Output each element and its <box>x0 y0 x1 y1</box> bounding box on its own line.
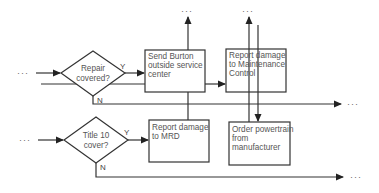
no-label: N <box>97 96 103 105</box>
process-label: Send Burton <box>148 52 194 61</box>
process-label: center <box>148 70 171 79</box>
continuation-top-1: ··· <box>181 6 193 16</box>
process-label: Report damage <box>229 51 286 60</box>
continuation-entry-1: ··· <box>17 68 29 78</box>
decision-label: Repair <box>81 64 105 73</box>
arrow-no-2 <box>96 163 343 177</box>
arrow-no-1 <box>93 96 341 104</box>
process-order-powertrain: Order powertrain from manufacturer <box>229 122 294 165</box>
decision-title10-cover: Title 10 cover? Y N <box>64 117 130 172</box>
process-label: Order powertrain <box>232 125 294 134</box>
continuation-top-2: ··· <box>242 6 254 16</box>
process-label: Control <box>229 69 256 78</box>
decision-label: covered? <box>76 74 110 83</box>
process-label: from <box>232 134 249 143</box>
decision-label: Title 10 <box>83 131 110 140</box>
process-label: to Maintenance <box>229 60 285 69</box>
process-report-maintenance: Report damage to Maintenance Control <box>226 49 286 92</box>
process-label: outside service <box>148 61 203 70</box>
yes-label: Y <box>124 128 130 137</box>
process-label: Report damage <box>152 123 209 132</box>
process-report-mrd: Report damage to MRD <box>149 120 209 162</box>
process-label: to MRD <box>152 132 180 141</box>
yes-label: Y <box>120 62 126 71</box>
process-send-burton: Send Burton outside service center <box>145 50 205 92</box>
flowchart-diagram: Repair covered? Y N Title 10 cover? Y N … <box>0 0 379 193</box>
decision-label: cover? <box>84 141 109 150</box>
process-label: manufacturer <box>232 143 281 152</box>
continuation-right-2: ··· <box>350 172 362 182</box>
continuation-right-1: ··· <box>347 99 359 109</box>
continuation-entry-2: ··· <box>19 135 31 145</box>
no-label: N <box>100 163 106 172</box>
